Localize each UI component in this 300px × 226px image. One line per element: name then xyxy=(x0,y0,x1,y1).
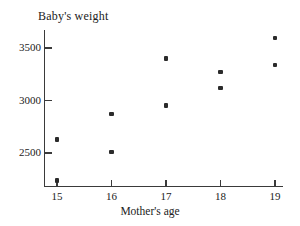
data-point xyxy=(164,103,169,108)
x-axis-tick xyxy=(274,180,275,187)
x-axis-tick-label: 15 xyxy=(42,190,72,202)
scatter-plot-figure: Baby's weight 250030003500 1516171819 Mo… xyxy=(0,0,300,226)
data-point xyxy=(164,56,169,61)
data-point xyxy=(109,112,114,117)
y-axis-tick xyxy=(44,100,52,101)
data-point xyxy=(273,36,278,41)
data-point xyxy=(218,70,223,75)
y-axis-tick xyxy=(44,47,52,48)
x-axis-tick-label: 19 xyxy=(260,190,290,202)
data-point xyxy=(55,137,60,142)
data-point xyxy=(55,178,60,183)
x-axis-label: Mother's age xyxy=(0,205,300,217)
page-title: Baby's weight xyxy=(38,9,108,24)
y-axis-tick-label: 3500 xyxy=(0,41,41,53)
x-axis-tick-label: 17 xyxy=(151,190,181,202)
data-point xyxy=(109,150,114,155)
x-axis-line xyxy=(44,186,283,187)
x-axis-tick xyxy=(165,180,166,187)
data-point xyxy=(273,63,278,68)
x-axis-tick-label: 16 xyxy=(97,190,127,202)
x-axis-tick-label: 18 xyxy=(206,190,236,202)
x-axis-tick xyxy=(220,180,221,187)
data-point xyxy=(218,86,223,91)
y-axis-line xyxy=(44,30,45,187)
y-axis-tick-label: 3000 xyxy=(0,94,41,106)
y-axis-tick-label: 2500 xyxy=(0,146,41,158)
y-axis-tick xyxy=(44,152,52,153)
x-axis-tick xyxy=(111,180,112,187)
